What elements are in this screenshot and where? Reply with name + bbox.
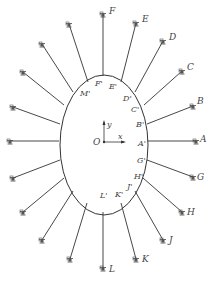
y-axis-label: y [106,120,112,129]
anchor-support-icon [66,22,72,27]
node-label-Bp: B' [135,120,144,129]
anchor-support-icon [100,12,106,17]
anchor-label-E: E [141,14,149,24]
node-label-Fp: F' [94,79,103,88]
node-label-Kp: K' [114,190,123,199]
node-label-Dp: D' [122,94,132,103]
node-label-Hp: H' [133,172,143,181]
anchor-label-G: G [197,172,204,182]
anchor-label-B: B [196,96,204,106]
cable-left-13 [23,178,64,212]
anchor-support-icon [67,257,73,262]
node-label-Gp: G' [137,156,146,165]
anchor-support-icon [133,257,139,262]
anchor-label-J: J [167,235,174,245]
anchor-support-icon [133,21,139,26]
coordinate-axes: Oxy [93,120,126,147]
cable-B [147,106,193,124]
anchor-label-A: A [199,134,207,144]
anchor-support-icon [39,238,45,243]
anchor-support-icon [160,238,166,243]
cable-K [121,203,136,259]
cable-G [147,160,193,177]
anchor-label-D: D [168,32,176,42]
origin-label: O [93,137,101,147]
node-label-Cp: C' [131,105,139,114]
cable-left-16 [13,107,60,124]
node-label-Ep: E' [108,82,117,91]
cable-H [143,178,182,212]
anchor-support-icon [39,42,45,47]
node-label-Ap: A' [137,139,146,148]
anchor-label-C: C [187,62,194,72]
anchor-label-K: K [141,254,150,264]
cable-D [135,41,163,92]
x-axis-label: x [118,132,123,141]
node-label-Mp: M' [79,89,90,98]
anchor-support-icon [160,39,166,44]
cable-left-17 [23,72,64,105]
cable-left-19 [69,24,88,82]
cable-left-14 [13,160,60,178]
cable-C [144,71,182,105]
anchor-support-icon [100,266,106,271]
y-arrow-icon [103,120,106,125]
anchor-label-F: F [108,6,116,16]
cable-left-11 [70,203,87,259]
anchor-support-icon [193,139,199,144]
cable-E [121,23,136,82]
anchor-label-H: H [186,207,195,217]
cable-left-12 [42,191,73,240]
cable-J [135,191,163,240]
node-label-Lp: L' [99,191,108,200]
node-label-Jp: J' [125,182,132,191]
cable-left-18 [42,44,73,92]
cable-net-diagram: Oxy FF'EE'DD'CC'BB'AA'GG'HH'JJ'KK'LL'M' [0,0,209,283]
anchor-label-L: L [108,264,115,274]
anchor-support-icon [7,139,13,144]
